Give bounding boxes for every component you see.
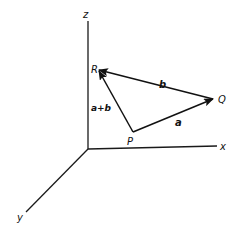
vector-b-label: b	[159, 79, 166, 90]
y-axis-label: y	[16, 212, 24, 223]
vector-a-arrow	[133, 99, 213, 132]
z-axis-label: z	[82, 9, 89, 20]
point-Q-label: Q	[218, 94, 226, 105]
point-P-label: P	[127, 136, 134, 147]
vector-diagram: z x y R Q P a b a+b	[0, 0, 240, 233]
vector-a-plus-b-arrow	[99, 71, 133, 132]
vector-b-arrow	[99, 70, 213, 99]
diagram-svg: z x y R Q P a b a+b	[0, 0, 240, 233]
vector-a-plus-b-label: a+b	[91, 103, 112, 113]
y-axis	[26, 149, 88, 212]
x-axis-label: x	[219, 141, 226, 152]
vector-a-label: a	[175, 117, 182, 128]
x-axis	[88, 146, 217, 149]
point-R-label: R	[91, 64, 98, 75]
